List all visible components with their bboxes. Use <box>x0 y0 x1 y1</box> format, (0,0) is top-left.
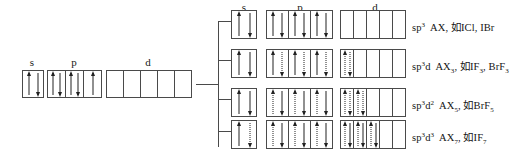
up-arrow <box>237 11 240 38</box>
arrow-head <box>369 121 373 126</box>
orbital-cell <box>379 10 393 39</box>
arrow-head <box>271 89 275 94</box>
arrow-head <box>315 89 319 94</box>
arrow-shaft <box>344 52 345 75</box>
arrow-group <box>267 121 288 148</box>
orbital-cell <box>288 120 311 149</box>
arrow-shaft <box>370 123 371 146</box>
arrow-head <box>271 50 275 55</box>
hybridization-label-sp3d: sp3d AX3, 如IF3, BrF3 <box>412 58 509 75</box>
arrow-shaft <box>294 91 295 114</box>
bracket-branch-2 <box>218 60 231 61</box>
arrow-head <box>237 121 241 126</box>
dotted-up-arrow <box>293 121 296 148</box>
arrow-head <box>302 72 306 77</box>
dotted-up-arrow <box>315 89 318 116</box>
orbital-cell <box>231 88 257 117</box>
down-arrow <box>303 89 306 116</box>
arrow-head <box>356 89 360 94</box>
examples-prefix: , 如 <box>454 61 470 72</box>
arrow-shaft <box>316 91 317 114</box>
arrow-group <box>311 89 332 116</box>
arrow-head <box>343 121 347 126</box>
orbital-cell <box>288 88 311 117</box>
arrow-group <box>354 89 366 116</box>
orbital-cell <box>174 70 192 98</box>
dotted-up-arrow <box>315 121 318 148</box>
orbital-cell <box>340 120 354 149</box>
up-arrow <box>237 121 240 148</box>
arrow-head <box>271 121 275 126</box>
arrow-shaft <box>357 123 358 146</box>
orbital-cell <box>266 49 289 78</box>
orbital-cell <box>266 10 289 39</box>
arrow-head <box>302 33 306 38</box>
orbital-cell <box>22 70 44 98</box>
arrow-head <box>51 71 55 76</box>
orbital-cell <box>392 88 406 117</box>
excited-p-block-sp3 <box>266 10 333 39</box>
excited-d-block-sp3 <box>340 10 406 39</box>
orbital-cell <box>288 10 311 39</box>
orbital-cell <box>310 120 333 149</box>
dotted-down-arrow <box>325 50 328 77</box>
dotted-up-arrow <box>369 121 372 148</box>
down-arrow <box>36 71 39 97</box>
arrow-group <box>48 71 65 97</box>
arrow-head <box>248 143 252 148</box>
arrow-head <box>280 72 284 77</box>
dotted-up-arrow <box>271 121 274 148</box>
down-arrow <box>248 50 251 77</box>
down-arrow <box>281 121 284 148</box>
arrow-shaft <box>238 52 239 75</box>
arrow-head <box>324 111 328 116</box>
down-arrow <box>281 11 284 38</box>
excited-d-block-sp3d <box>340 49 406 78</box>
arrow-head <box>237 50 241 55</box>
formula-base: AX <box>439 132 454 143</box>
down-arrow <box>303 11 306 38</box>
orbital-cell <box>392 120 406 149</box>
hybrid-base: sp <box>412 61 422 72</box>
arrow-head <box>36 92 40 97</box>
up-arrow <box>237 50 240 77</box>
dotted-up-arrow <box>343 50 346 77</box>
arrow-head <box>293 11 297 16</box>
arrow-group <box>23 71 43 97</box>
down-arrow <box>374 121 377 148</box>
dotted-up-arrow <box>356 89 359 116</box>
down-arrow <box>281 89 284 116</box>
down-arrow <box>361 121 364 148</box>
orbital-cell <box>157 70 175 98</box>
arrow-head <box>58 92 62 97</box>
orbital-cell <box>353 88 367 117</box>
up-arrow <box>27 71 30 97</box>
down-arrow <box>77 71 80 97</box>
arrow-head <box>302 143 306 148</box>
excited-s-block-sp3d3 <box>231 120 257 149</box>
arrow-group <box>66 71 83 97</box>
orbital-cell <box>379 49 393 78</box>
hybrid-base: sp <box>412 100 422 111</box>
examples-prefix: , 如 <box>458 100 474 111</box>
arrow-shaft <box>238 123 239 146</box>
hybridization-label-sp3: sp3 AX, 如ICl, IBr <box>412 19 494 34</box>
ground-p-block <box>47 70 102 98</box>
example-text: ICl, IBr <box>461 22 494 33</box>
arrow-group <box>267 50 288 77</box>
up-arrow <box>69 71 72 97</box>
orbital-cell <box>366 10 380 39</box>
excited-p-block-sp3d <box>266 49 333 78</box>
dotted-up-arrow <box>293 89 296 116</box>
arrow-head <box>361 143 365 148</box>
arrow-head <box>315 50 319 55</box>
excited-p-block-sp3d3 <box>266 120 333 149</box>
arrow-group <box>311 11 332 38</box>
up-arrow <box>51 71 54 97</box>
orbital-cell <box>379 88 393 117</box>
arrow-head <box>348 72 352 77</box>
orbital-cell <box>392 10 406 39</box>
arrow-group <box>267 11 288 38</box>
orbital-cell <box>65 70 84 98</box>
arrow-shaft <box>272 91 273 114</box>
